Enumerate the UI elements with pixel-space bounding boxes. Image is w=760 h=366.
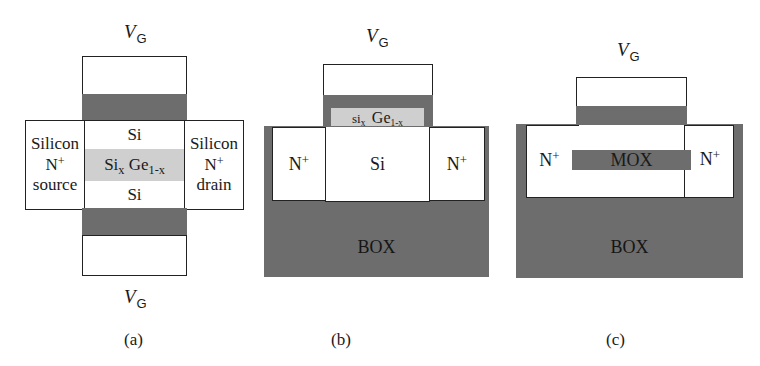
mox-layer: MOX bbox=[572, 150, 691, 170]
vg-subscript: G bbox=[137, 296, 147, 311]
n-plus-label: N+ bbox=[447, 154, 467, 175]
n-symbol: N bbox=[700, 149, 713, 169]
gate-c bbox=[576, 77, 687, 107]
bottom-gate-oxide-a bbox=[82, 208, 187, 236]
plus-symbol: + bbox=[460, 152, 467, 167]
vg-symbol: V bbox=[124, 286, 136, 307]
drain-label-line2: N+ bbox=[204, 155, 223, 176]
gate-voltage-label-bottom-a: VG bbox=[124, 287, 147, 310]
top-gate-a bbox=[82, 56, 187, 95]
source-plus: + bbox=[58, 153, 65, 167]
vg-symbol: V bbox=[366, 25, 378, 46]
sige-1-x: 1-x bbox=[149, 163, 165, 177]
channel-si-b: Si bbox=[325, 127, 430, 202]
gate-b bbox=[323, 64, 433, 96]
n-plus-right-b: N+ bbox=[429, 127, 485, 201]
box-text: BOX bbox=[357, 237, 395, 258]
sige-si: Si bbox=[104, 155, 118, 174]
bottom-gate-a bbox=[82, 235, 187, 276]
caption-c: (c) bbox=[606, 331, 625, 348]
si-bottom-label: Si bbox=[127, 185, 141, 205]
top-gate-oxide-a bbox=[82, 94, 187, 121]
drain-region: Silicon N+ drain bbox=[184, 120, 244, 210]
box-text: BOX bbox=[610, 237, 648, 258]
source-region: Silicon N+ source bbox=[25, 120, 85, 210]
box-label-c: BOX bbox=[516, 230, 743, 264]
channel-si-top: Si bbox=[85, 121, 184, 149]
n-symbol: N bbox=[289, 154, 302, 174]
gate-oxide-c bbox=[576, 106, 687, 126]
sige-ge: Ge bbox=[129, 155, 149, 174]
plus-symbol: + bbox=[552, 148, 559, 163]
drain-label-line1: Silicon bbox=[190, 134, 238, 155]
n-plus-label: N+ bbox=[289, 154, 309, 175]
channel-si-bottom: Si bbox=[85, 181, 184, 209]
si-top-label: Si bbox=[127, 125, 141, 145]
caption-b: (b) bbox=[331, 331, 351, 348]
plus-symbol: + bbox=[302, 152, 309, 167]
drain-label-line3: drain bbox=[197, 175, 232, 196]
caption-a: (a) bbox=[124, 331, 143, 348]
channel-sige-layer: Six Ge1-x bbox=[85, 149, 184, 181]
gate-voltage-label-top-a: VG bbox=[124, 22, 147, 45]
gate-voltage-label-c: VG bbox=[617, 40, 640, 63]
vg-subscript: G bbox=[630, 49, 640, 64]
sige-label: Six Ge1-x bbox=[104, 155, 165, 175]
box-label-b: BOX bbox=[264, 230, 489, 264]
n-plus-left-label-c: N+ bbox=[527, 145, 572, 175]
source-label-line1: Silicon bbox=[31, 134, 79, 155]
sige-ge: Ge bbox=[372, 109, 391, 126]
n-plus-label: N+ bbox=[539, 150, 559, 171]
sige-x: x bbox=[118, 163, 124, 177]
n-symbol: N bbox=[447, 154, 460, 174]
source-label-line3: source bbox=[33, 175, 77, 196]
drain-plus: + bbox=[217, 153, 224, 167]
plus-symbol: + bbox=[713, 147, 720, 162]
mox-label: MOX bbox=[610, 150, 652, 171]
drain-n: N bbox=[204, 155, 216, 174]
sige-strip-b: six Ge1-x bbox=[331, 108, 424, 128]
n-plus-right-label-c: N+ bbox=[690, 144, 730, 174]
source-n: N bbox=[45, 155, 57, 174]
vg-symbol: V bbox=[124, 21, 136, 42]
gate-voltage-label-b: VG bbox=[366, 26, 389, 49]
n-plus-label: N+ bbox=[700, 149, 720, 170]
n-symbol: N bbox=[539, 150, 552, 170]
vg-subscript: G bbox=[379, 35, 389, 50]
sige-strip-label: six Ge1-x bbox=[352, 109, 403, 127]
n-plus-left-b: N+ bbox=[272, 127, 326, 201]
si-label: Si bbox=[370, 154, 385, 175]
source-label-line2: N+ bbox=[45, 155, 64, 176]
vg-subscript: G bbox=[137, 31, 147, 46]
vg-symbol: V bbox=[617, 39, 629, 60]
sige-si: si bbox=[352, 111, 361, 126]
